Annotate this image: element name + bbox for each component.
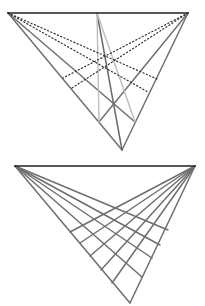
perspective-diagram bbox=[0, 0, 205, 306]
construction-line bbox=[97, 13, 99, 122]
perspective-grid-bottom bbox=[15, 166, 195, 303]
grid-line bbox=[70, 166, 195, 232]
grid-line bbox=[15, 166, 160, 245]
grid-line bbox=[101, 166, 195, 270]
perspective-construction-top bbox=[8, 13, 188, 150]
grid-line bbox=[112, 166, 195, 283]
grid-line bbox=[15, 166, 152, 258]
grid-line bbox=[15, 166, 142, 277]
dotted-construction-line bbox=[8, 13, 157, 79]
construction-line bbox=[97, 13, 122, 150]
grid-line bbox=[80, 166, 195, 243]
grid-line bbox=[90, 166, 195, 256]
